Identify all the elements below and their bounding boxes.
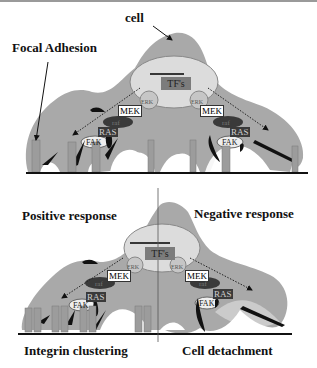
ras-right-bottom: RAS	[213, 289, 233, 299]
raf-right-bottom: raf	[199, 279, 207, 289]
tfs-box-top: TF's	[161, 77, 191, 90]
positive-response-label: Positive response	[22, 208, 117, 224]
mek-right-top: MEK	[200, 105, 224, 117]
ras-right-top: RAS	[230, 127, 250, 137]
raf-right-top: raf	[222, 118, 230, 128]
ras-left-top: RAS	[98, 127, 118, 137]
fak-left-bottom: FAK	[73, 301, 88, 311]
integrin-clustering-label: Integrin clustering	[24, 343, 128, 359]
tfs-box-bottom: TF's	[145, 247, 175, 260]
erk-right-bottom: ERK	[171, 262, 183, 272]
mek-left-bottom: MEK	[107, 270, 131, 282]
fak-right-bottom: FAK	[199, 299, 214, 309]
ras-left-bottom: RAS	[86, 292, 106, 302]
fak-left-top: FAK	[86, 138, 101, 148]
raf-left-bottom: raf	[95, 279, 103, 289]
negative-response-label: Negative response	[194, 206, 294, 222]
focal-adhesion-label: Focal Adhesion	[12, 40, 97, 56]
erk-left-top: ERK	[141, 97, 153, 107]
cell-detachment-label: Cell detachment	[182, 343, 273, 359]
mek-left-top: MEK	[118, 105, 142, 117]
fak-right-top: FAK	[222, 138, 237, 148]
cell-label: cell	[125, 10, 144, 26]
